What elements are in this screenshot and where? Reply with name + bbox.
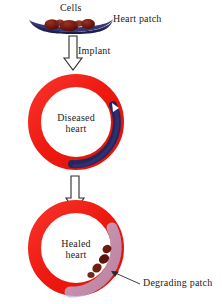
cell-blob-right (81, 19, 95, 29)
label-healed-heart: Healed heart (41, 238, 111, 260)
label-diseased-heart-line2: heart (41, 123, 111, 134)
diagram-canvas: Cells Heart patch Implant Diseased heart… (0, 0, 222, 304)
heart-patch-group (29, 19, 113, 34)
label-healed-heart-line2: heart (41, 249, 111, 260)
diagram-graphics (0, 0, 222, 304)
label-diseased-heart: Diseased heart (41, 112, 111, 134)
label-cells: Cells (60, 2, 82, 13)
cell-blob-small-a (56, 20, 64, 27)
healed-cell-blob-d (87, 272, 94, 278)
label-heart-patch: Heart patch (113, 13, 162, 24)
label-degrading-patch: Degrading patch (143, 277, 212, 288)
label-healed-heart-line1: Healed (41, 238, 111, 249)
cell-blob-small-b (75, 20, 83, 26)
label-implant: Implant (78, 45, 111, 56)
degrading-patch-callout (111, 271, 140, 284)
label-diseased-heart-line1: Diseased (41, 112, 111, 123)
